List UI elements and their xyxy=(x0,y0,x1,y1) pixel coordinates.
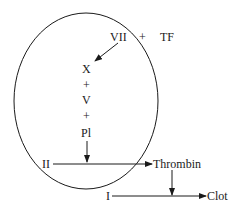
label-i: I xyxy=(106,189,110,203)
label-ii: II xyxy=(42,157,50,171)
label-v: V xyxy=(82,93,91,107)
label-tf: TF xyxy=(160,30,174,44)
label-clot: Clot xyxy=(207,189,228,203)
label-plus-2: + xyxy=(83,109,90,123)
label-plus-1: + xyxy=(83,78,90,92)
label-plus-tf: + xyxy=(139,30,146,44)
label-vii: VII xyxy=(110,30,127,44)
label-thrombin: Thrombin xyxy=(153,157,201,171)
arrow-vii-to-x xyxy=(95,43,118,61)
label-pl: Pl xyxy=(81,126,92,140)
coagulation-diagram: VII + TF X + V + Pl II Thrombin I Clot xyxy=(0,0,239,214)
label-x: X xyxy=(82,62,91,76)
